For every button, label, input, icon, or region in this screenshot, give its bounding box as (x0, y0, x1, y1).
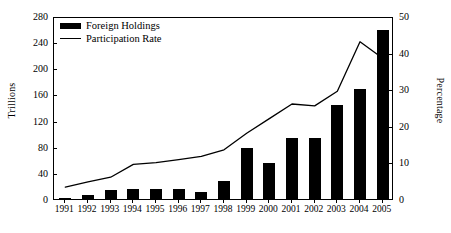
y-tick-label-left: 200 (14, 64, 48, 74)
x-tick-mark (132, 199, 133, 203)
y-tick-mark-left (53, 43, 57, 44)
chart-legend: Foreign Holdings Participation Rate (60, 19, 162, 45)
y-tick-label-right: 10 (399, 158, 433, 168)
x-tick-mark (178, 199, 179, 203)
bar-swatch-icon (60, 23, 81, 29)
y-tick-mark-right (388, 163, 392, 164)
y-tick-label-right: 40 (399, 49, 433, 59)
y-tick-mark-right (388, 54, 392, 55)
y-tick-label-left: 280 (14, 12, 48, 22)
participation-rate-polyline (65, 42, 382, 187)
chart-container: Trillions Percentage Foreign Holdings Pa… (0, 0, 451, 233)
y-tick-label-right: 30 (399, 85, 433, 95)
y-tick-mark-left (53, 122, 57, 123)
y-tick-label-left: 40 (14, 169, 48, 179)
y-tick-label-right: 50 (399, 12, 433, 22)
x-tick-mark (64, 199, 65, 203)
legend-label-foreign-holdings: Foreign Holdings (86, 19, 160, 32)
line-series-participation-rate (54, 18, 394, 201)
x-tick-mark (336, 199, 337, 203)
y-tick-mark-right (388, 90, 392, 91)
x-tick-mark (268, 199, 269, 203)
legend-label-participation-rate: Participation Rate (86, 32, 162, 45)
x-tick-mark (155, 199, 156, 203)
y-tick-mark-left (53, 95, 57, 96)
x-tick-mark (382, 199, 383, 203)
x-tick-mark (359, 199, 360, 203)
x-tick-mark (200, 199, 201, 203)
y-tick-label-left: 120 (14, 117, 48, 127)
legend-item-foreign-holdings: Foreign Holdings (60, 19, 162, 32)
y-tick-label-left: 80 (14, 143, 48, 153)
x-tick-label: 2005 (362, 205, 402, 215)
x-tick-mark (314, 199, 315, 203)
x-tick-mark (246, 199, 247, 203)
legend-item-participation-rate: Participation Rate (60, 32, 162, 45)
x-tick-mark (87, 199, 88, 203)
y-tick-mark-right (388, 127, 392, 128)
y-tick-mark-left (53, 148, 57, 149)
y-tick-label-left: 160 (14, 90, 48, 100)
y-tick-mark-left (53, 174, 57, 175)
y-tick-mark-left (53, 69, 57, 70)
y-tick-label-right: 20 (399, 122, 433, 132)
y-axis-title-right: Percentage (435, 69, 446, 133)
y-tick-label-right: 0 (399, 195, 433, 205)
x-tick-mark (223, 199, 224, 203)
line-swatch-icon (60, 38, 81, 39)
y-tick-label-left: 0 (14, 195, 48, 205)
x-tick-mark (110, 199, 111, 203)
y-tick-label-left: 240 (14, 38, 48, 48)
x-tick-mark (291, 199, 292, 203)
